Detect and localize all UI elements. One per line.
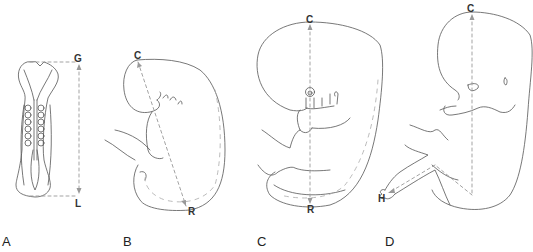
point-label-c-b: C (134, 50, 141, 61)
embryo-c-dashed-somites (280, 80, 378, 198)
point-label-r-b: R (188, 206, 195, 217)
embryo-c-outline (257, 22, 383, 207)
measurement-lines (30, 16, 472, 206)
panel-label-d: D (385, 234, 394, 249)
embryo-b-outline (105, 59, 225, 210)
panel-label-a: A (2, 234, 11, 249)
point-label-l: L (75, 198, 81, 209)
panel-label-b: B (123, 234, 132, 249)
point-label-c-c: C (306, 14, 313, 25)
point-label-r-c: R (307, 204, 314, 215)
panel-label-c: C (257, 234, 266, 249)
embryo-b-dashed-somites (145, 90, 220, 202)
embryo-measurement-figure: G L C R C R C H A B C D (0, 0, 533, 252)
figure-drawing (0, 0, 533, 252)
point-label-g: G (74, 53, 82, 64)
point-label-h: H (378, 193, 385, 204)
point-label-c-d: C (467, 3, 474, 14)
embryo-a-outline (16, 62, 58, 197)
embryo-d-outline (380, 12, 532, 209)
